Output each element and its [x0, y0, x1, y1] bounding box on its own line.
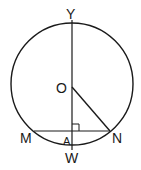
geometry-diagram: Y O M A W N — [0, 0, 141, 170]
label-o: O — [56, 80, 67, 96]
label-a: A — [63, 135, 71, 147]
label-m: M — [20, 130, 32, 146]
right-angle-marker — [72, 124, 79, 131]
label-n: N — [112, 130, 122, 146]
label-w: W — [65, 150, 79, 166]
label-y: Y — [66, 6, 76, 22]
